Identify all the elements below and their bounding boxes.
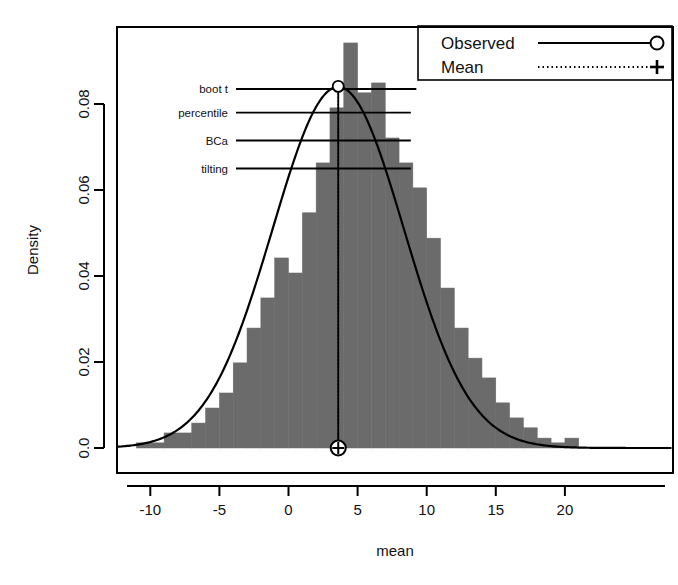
observed-top-marker — [333, 81, 344, 92]
x-tick-label: 15 — [487, 501, 504, 518]
histogram-bar — [482, 378, 496, 448]
y-axis-tick-labels: 0.00.020.040.060.08 — [75, 89, 92, 458]
ci-label-percentile: percentile — [178, 107, 228, 119]
x-tick-label: 0 — [284, 501, 292, 518]
x-axis-tick-labels: -10-505101520 — [139, 501, 573, 518]
ci-label-bca: BCa — [206, 135, 229, 147]
ci-label-boot-t: boot t — [199, 83, 229, 95]
x-axis-title: mean — [376, 542, 414, 559]
confidence-interval-labels: boot tpercentileBCatilting — [178, 83, 229, 175]
x-tick-label: -5 — [213, 501, 226, 518]
histogram-bar — [219, 393, 233, 448]
legend-observed-circle-icon — [651, 37, 664, 50]
histogram-bar — [399, 163, 413, 448]
histogram-bar — [206, 408, 220, 448]
histogram-bar — [178, 433, 192, 448]
legend-label-mean: Mean — [441, 58, 484, 77]
histogram-bar — [344, 43, 358, 448]
histogram-bar — [275, 258, 289, 448]
y-tick-label: 0.06 — [75, 175, 92, 204]
y-tick-label: 0.0 — [75, 438, 92, 459]
histogram-bar — [289, 273, 303, 448]
histogram-bar — [316, 163, 330, 448]
histogram-bar — [385, 138, 399, 448]
histogram-bar — [150, 443, 164, 448]
histogram-bar — [192, 423, 206, 448]
histogram-bar — [302, 213, 316, 448]
y-tick-label: 0.04 — [75, 261, 92, 290]
histogram-bar — [496, 403, 510, 448]
histogram-bar — [413, 188, 427, 448]
histogram-bar — [330, 108, 344, 448]
histogram-bar — [358, 93, 372, 448]
y-axis — [94, 104, 104, 448]
histogram-bar — [247, 328, 261, 448]
y-axis-title: Density — [24, 224, 41, 275]
histogram-bar — [454, 328, 468, 448]
y-tick-label: 0.02 — [75, 347, 92, 376]
y-tick-label: 0.08 — [75, 89, 92, 118]
density-histogram-plot: boot tpercentileBCatilting -10-505101520… — [0, 0, 678, 585]
x-tick-label: -10 — [139, 501, 161, 518]
histogram-bar — [510, 418, 524, 448]
ci-label-tilting: tilting — [201, 163, 228, 175]
histogram-bar — [427, 238, 441, 448]
histogram-bar — [468, 358, 482, 448]
chart-legend: Observed Mean — [418, 26, 672, 80]
legend-mean-plus-icon — [650, 60, 664, 74]
x-tick-label: 5 — [353, 501, 361, 518]
legend-label-observed: Observed — [441, 34, 515, 53]
chart-canvas: boot tpercentileBCatilting -10-505101520… — [0, 0, 678, 585]
x-tick-label: 10 — [418, 501, 435, 518]
x-axis — [127, 486, 665, 496]
x-tick-label: 20 — [557, 501, 574, 518]
histogram-bar — [233, 363, 247, 448]
histogram-bar — [261, 298, 275, 448]
